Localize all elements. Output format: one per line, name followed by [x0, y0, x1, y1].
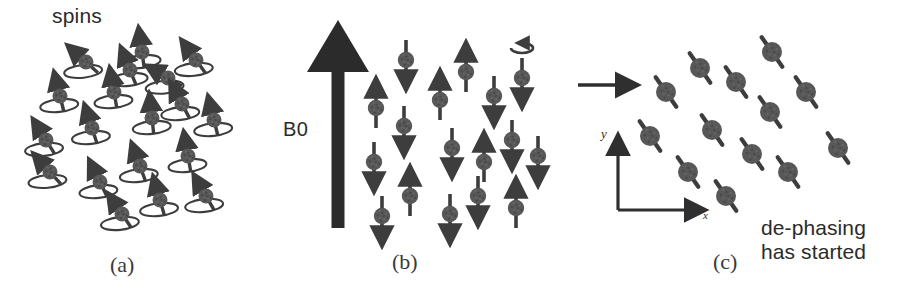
spins-label: spins — [52, 4, 102, 28]
spin-ball — [374, 208, 390, 224]
spin-ball — [135, 45, 150, 60]
spin-ball — [432, 92, 448, 108]
spin-ball — [530, 148, 546, 164]
spin-ball — [85, 121, 100, 136]
spin-ball — [760, 102, 780, 122]
spin-ball — [43, 165, 58, 180]
spin-ball — [199, 189, 214, 204]
spin-ball — [458, 64, 474, 80]
spin-ball — [133, 159, 148, 174]
spin-dephasing-figure: spins B0 de-phasinghas started y x (a) (… — [0, 0, 919, 294]
spin-ball — [123, 63, 138, 78]
spin-ball — [398, 52, 414, 68]
spin-ball — [508, 200, 524, 216]
spin-ball — [175, 97, 190, 112]
spin-ball — [368, 100, 384, 116]
caption-panel-c: (c) — [713, 249, 737, 275]
spin-ball — [402, 188, 418, 204]
spin-ball — [796, 82, 816, 102]
spin-ball — [726, 72, 746, 92]
spin-ball — [656, 82, 676, 102]
precession-arrow — [511, 43, 533, 53]
dephasing-caption: de-phasinghas started — [761, 216, 866, 263]
y-axis-label: y — [601, 126, 607, 142]
spin-ball — [702, 120, 722, 140]
spin-ball — [366, 154, 382, 170]
spin-ball — [514, 70, 530, 86]
spin-ball — [53, 89, 68, 104]
spin-ball — [189, 53, 204, 68]
spin-ball — [396, 118, 412, 134]
spin-ball — [181, 149, 196, 164]
spin-ball — [79, 55, 94, 70]
b0-field-arrow — [307, 20, 369, 228]
spin-ball — [742, 144, 762, 164]
spin-ball — [762, 42, 782, 62]
spin-ball — [444, 140, 460, 156]
panel-c-spin-group — [640, 37, 849, 210]
spin-ball — [486, 88, 502, 104]
dephasing-line-2: has started — [761, 240, 866, 263]
dephasing-line-1: de-phasing — [761, 216, 866, 239]
spin-ball — [470, 188, 486, 204]
caption-panel-b: (b) — [392, 249, 418, 275]
spin-ball — [115, 207, 130, 222]
spin-ball — [153, 193, 168, 208]
b0-label: B0 — [283, 118, 308, 140]
spin-ball — [93, 175, 108, 190]
spin-ball — [39, 133, 54, 148]
spin-ball — [640, 126, 660, 146]
panel-a-spin-group — [24, 36, 232, 232]
caption-panel-a: (a) — [110, 252, 134, 278]
spin-ball — [476, 154, 492, 170]
spin-ball — [778, 162, 798, 182]
spin-ball — [504, 132, 520, 148]
spin-ball — [145, 111, 160, 126]
spin-ball — [207, 113, 222, 128]
spin-ball — [678, 162, 698, 182]
panel-b-spin-group — [366, 40, 546, 236]
spin-ball — [716, 186, 736, 206]
spin-ball — [828, 138, 848, 158]
x-axis-label: x — [703, 209, 708, 221]
spin-ball — [690, 58, 710, 78]
spin-ball — [161, 71, 176, 86]
spin-ball — [442, 206, 458, 222]
